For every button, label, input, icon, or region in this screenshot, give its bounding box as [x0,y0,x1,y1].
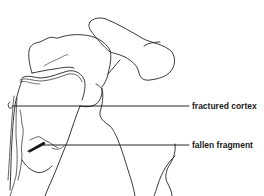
label-fallen-fragment: fallen fragment [192,141,253,150]
diagram-canvas: fractured cortex fallen fragment [0,0,264,196]
shoulder-fracture-drawing [0,0,264,196]
label-fractured-cortex: fractured cortex [192,102,257,111]
acromion-outline [89,18,175,80]
fallen-fragment-shape [28,142,45,152]
humeral-head-outline [29,35,111,87]
humerus-shaft [45,106,80,196]
